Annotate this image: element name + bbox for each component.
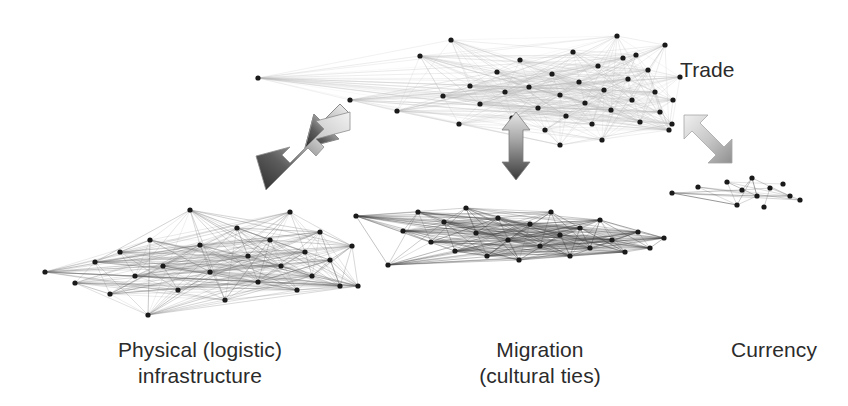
network-node	[440, 93, 445, 98]
network-node	[394, 108, 399, 113]
network-node	[42, 269, 47, 274]
network-node	[477, 101, 482, 106]
caption-physical: Physical (logistic)infrastructure	[60, 337, 340, 388]
network-edge	[459, 124, 602, 140]
network-node	[207, 269, 212, 274]
network-node	[456, 121, 461, 126]
network-node	[589, 121, 594, 126]
network-node	[317, 229, 322, 234]
network-node	[695, 184, 700, 189]
caption-physical-line2: infrastructure	[138, 364, 262, 387]
network-node	[294, 287, 299, 292]
network-node	[535, 105, 540, 110]
network-node	[400, 228, 405, 233]
network-node	[527, 221, 532, 226]
network-node	[542, 127, 547, 132]
network-edge	[330, 260, 340, 286]
network-node	[622, 249, 627, 254]
caption-migration-line1: Migration	[496, 338, 583, 361]
network-edge	[290, 212, 305, 252]
network-edge	[75, 283, 110, 294]
network-node	[767, 185, 772, 190]
network-node	[608, 107, 613, 112]
network-node	[145, 312, 150, 317]
network-node	[494, 69, 499, 74]
network-node	[255, 279, 260, 284]
network-node	[287, 209, 292, 214]
network-node	[278, 263, 283, 268]
network-node	[517, 57, 522, 62]
network-node	[669, 121, 674, 126]
physical-edges	[45, 210, 358, 315]
network-node	[666, 127, 671, 132]
network-node	[567, 253, 572, 258]
network-node	[355, 283, 360, 288]
network-node	[505, 237, 510, 242]
network-node	[662, 42, 667, 47]
network-node	[415, 209, 420, 214]
network-node	[72, 280, 77, 285]
network-node	[635, 229, 640, 234]
network-edge	[727, 182, 737, 205]
network-edge	[752, 178, 757, 196]
caption-currency: Currency	[700, 337, 848, 363]
network-edge	[451, 40, 636, 55]
network-layer-migration	[353, 205, 666, 267]
network-node	[463, 205, 468, 210]
network-node	[633, 52, 638, 57]
network-node	[516, 257, 521, 262]
network-node	[749, 175, 754, 180]
network-node	[670, 97, 675, 102]
network-edge	[110, 294, 148, 315]
migration-edges	[356, 208, 664, 265]
multiplex-network-figure: Trade Physical (logistic)infrastructure …	[0, 0, 848, 406]
network-node	[117, 249, 122, 254]
network-node	[349, 243, 354, 248]
network-node	[645, 67, 650, 72]
network-node	[417, 53, 422, 58]
network-node	[629, 97, 634, 102]
network-node	[353, 213, 358, 218]
network-node	[577, 225, 582, 230]
trade-migration-arrow	[502, 112, 530, 180]
network-node	[175, 287, 180, 292]
caption-physical-line1: Physical (logistic)	[118, 338, 282, 361]
network-layer-currency	[669, 175, 802, 209]
network-node	[327, 257, 332, 262]
network-node	[601, 87, 606, 92]
network-node	[428, 239, 433, 244]
network-node	[92, 259, 97, 264]
network-node	[337, 283, 342, 288]
network-node	[576, 79, 581, 84]
network-edge	[737, 178, 752, 205]
network-node	[669, 190, 674, 195]
network-node	[595, 63, 600, 68]
network-edge	[75, 283, 148, 315]
network-node	[787, 193, 792, 198]
network-node	[582, 100, 587, 105]
network-node	[255, 75, 260, 80]
network-node	[557, 92, 562, 97]
network-node	[734, 202, 739, 207]
network-node	[309, 273, 314, 278]
network-node	[187, 207, 192, 212]
network-node	[625, 76, 630, 81]
network-node	[652, 89, 657, 94]
network-node	[614, 33, 619, 38]
network-node	[609, 237, 614, 242]
network-node	[797, 197, 802, 202]
network-node	[452, 248, 457, 253]
caption-migration-line2: (cultural ties)	[479, 364, 601, 387]
network-node	[448, 37, 453, 42]
network-node	[761, 204, 766, 209]
network-node	[563, 113, 568, 118]
trade-currency-arrow	[684, 115, 732, 163]
network-layer-physical	[42, 207, 360, 317]
network-node	[620, 55, 625, 60]
caption-migration: Migration(cultural ties)	[420, 337, 660, 388]
network-node	[526, 84, 531, 89]
network-node	[347, 97, 352, 102]
network-node	[661, 235, 666, 240]
trade-physical-arrow	[256, 104, 350, 190]
caption-trade: Trade	[680, 57, 800, 83]
